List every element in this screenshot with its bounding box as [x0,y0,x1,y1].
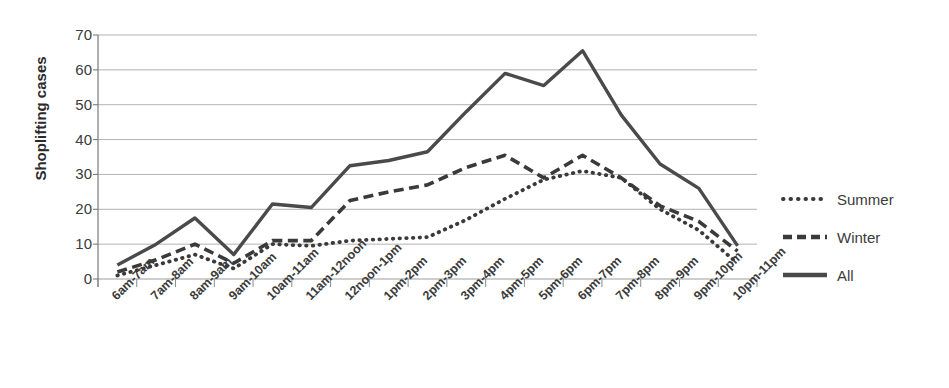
shoplifting-cases-line-chart: Shoplifting cases 010203040506070 6am-7a… [0,0,949,388]
legend-item-winter: Winter [782,218,942,256]
legend-label-summer: Summer [837,191,894,208]
legend-label-winter: Winter [837,229,880,246]
legend-swatch-dotted-icon [782,193,828,205]
series-line-winter [117,155,737,272]
legend-item-summer: Summer [782,180,942,218]
legend-item-all: All [782,256,942,294]
legend-swatch-solid-icon [782,269,828,281]
legend-label-all: All [837,267,854,284]
series-line-all [117,51,737,265]
legend-swatch-dashed-icon [782,231,828,243]
chart-legend: Summer Winter All [782,180,942,294]
